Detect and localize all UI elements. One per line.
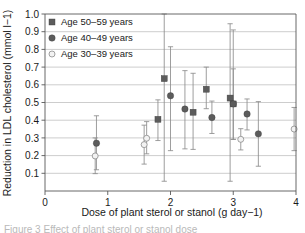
marker-filled-square bbox=[190, 109, 196, 115]
marker-open-circle bbox=[144, 135, 150, 141]
x-tick-label: 4 bbox=[293, 197, 299, 208]
figure-caption: Figure 3 Effect of plant sterol or stano… bbox=[4, 224, 198, 233]
y-tick-label: 0.8 bbox=[25, 44, 39, 55]
figure-container: 0.10.20.30.40.50.60.70.80.91.0 01234 Red… bbox=[0, 0, 305, 233]
legend-label: Age 30–39 years bbox=[61, 48, 133, 59]
y-axis-title: Reduction in LDL cholesterol (mmol l−1) bbox=[1, 10, 13, 197]
y-tick-label: 0.3 bbox=[25, 133, 39, 144]
y-tick-label: 0.1 bbox=[25, 168, 39, 179]
marker-filled-circle bbox=[244, 111, 250, 117]
marker-filled-circle bbox=[182, 106, 188, 112]
marker-filled-circle bbox=[167, 93, 173, 99]
y-tick-label: 0.5 bbox=[25, 97, 39, 108]
x-tick-label: 0 bbox=[42, 197, 48, 208]
legend-marker-filled-circle bbox=[49, 35, 55, 41]
ldl-cholesterol-scatter-chart: 0.10.20.30.40.50.60.70.80.91.0 01234 Red… bbox=[0, 0, 305, 233]
y-tick-label: 0.7 bbox=[25, 62, 39, 73]
marker-filled-square bbox=[155, 116, 161, 122]
legend-label: Age 40–49 years bbox=[61, 32, 133, 43]
marker-open-circle bbox=[92, 153, 98, 159]
y-axis-ticks bbox=[42, 14, 46, 173]
marker-filled-circle bbox=[255, 131, 261, 137]
y-tick-label: 0.4 bbox=[25, 115, 39, 126]
x-axis-ticks bbox=[45, 191, 296, 195]
y-tick-label: 0.6 bbox=[25, 79, 39, 90]
marker-open-circle bbox=[141, 142, 147, 148]
legend-marker-filled-square bbox=[49, 19, 55, 25]
marker-open-circle bbox=[238, 136, 244, 142]
y-tick-label: 1.0 bbox=[25, 9, 39, 20]
marker-filled-square bbox=[227, 95, 233, 101]
marker-filled-square bbox=[161, 76, 167, 82]
x-axis-title: Dose of plant sterol or stanol (g day−1) bbox=[81, 206, 262, 218]
y-tick-label: 0.2 bbox=[25, 150, 39, 161]
marker-filled-circle bbox=[230, 101, 236, 107]
chart-legend: Age 50–59 yearsAge 40–49 yearsAge 30–39 … bbox=[49, 16, 133, 59]
legend-marker-open-circle bbox=[49, 51, 55, 57]
legend-label: Age 50–59 years bbox=[61, 16, 133, 27]
marker-filled-circle bbox=[209, 114, 215, 120]
marker-filled-square bbox=[203, 86, 209, 92]
caption-text: Figure 3 Effect of plant sterol or stano… bbox=[4, 224, 198, 233]
marker-filled-circle bbox=[93, 140, 99, 146]
y-axis-tick-labels: 0.10.20.30.40.50.60.70.80.91.0 bbox=[25, 9, 39, 179]
y-tick-label: 0.9 bbox=[25, 26, 39, 37]
